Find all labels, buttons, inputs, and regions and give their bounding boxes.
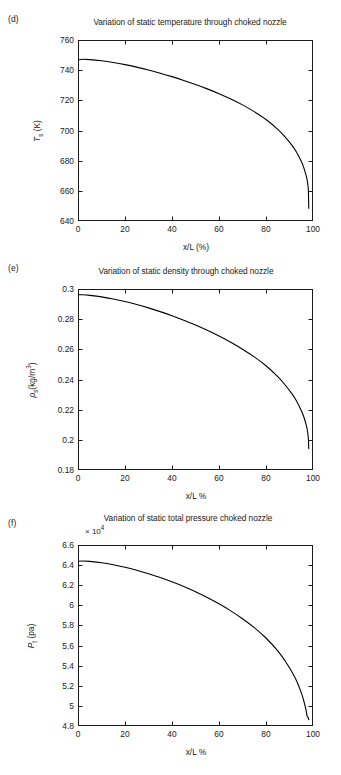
y-tick-label: 6.2 (0, 580, 74, 590)
x-tick-label: 60 (214, 224, 223, 234)
y-tick-label: 740 (0, 65, 74, 75)
x-tick-label: 20 (120, 224, 129, 234)
x-tick-label: 60 (214, 473, 223, 483)
y-tick-label: 0.2 (0, 435, 74, 445)
y-tick-label: 5 (0, 701, 74, 711)
y-tick-label: 660 (0, 186, 74, 196)
chart-title-e: Variation of static density through chok… (99, 266, 274, 276)
chart-title-f: Variation of static total pressure choke… (104, 513, 273, 523)
panel-letter-d: (d) (8, 14, 19, 24)
x-tick-label: 0 (76, 729, 81, 739)
x-tick-label: 40 (167, 473, 176, 483)
y-tick-label: 0.18 (0, 465, 74, 475)
y-tick-label: 680 (0, 156, 74, 166)
x-tick-label: 80 (261, 224, 270, 234)
x-tick-label: 80 (261, 729, 270, 739)
y-tick-label: 640 (0, 216, 74, 226)
multiplier-base: × 10 (85, 527, 101, 536)
y-tick-label: 6.6 (0, 540, 74, 550)
y-tick-label: 6.4 (0, 560, 74, 570)
axis-multiplier-f: × 104 (85, 524, 104, 536)
y-tick-label: 0.22 (0, 405, 74, 415)
panel-letter-e: (e) (8, 263, 19, 273)
plot-area-d (78, 40, 313, 221)
panel-letter-f: (f) (8, 518, 16, 528)
y-tick-label: 0.28 (0, 314, 74, 324)
y-axis-label-e: ρs(kg/m3) (25, 362, 38, 397)
plot-area-f (78, 545, 313, 726)
plot-border (79, 290, 313, 470)
y-tick-label: 5.4 (0, 661, 74, 671)
x-axis-label-d: x/L (%) (183, 242, 209, 252)
x-tick-label: 100 (306, 224, 320, 234)
x-tick-label: 100 (306, 473, 320, 483)
x-tick-label: 40 (167, 224, 176, 234)
y-tick-label: 720 (0, 95, 74, 105)
x-tick-label: 20 (120, 473, 129, 483)
plot-area-e (78, 289, 313, 470)
x-tick-label: 0 (76, 473, 81, 483)
y-tick-label: 4.8 (0, 721, 74, 731)
x-tick-label: 100 (306, 729, 320, 739)
y-tick-label: 6 (0, 600, 74, 610)
x-tick-label: 20 (120, 729, 129, 739)
x-tick-label: 0 (76, 224, 81, 234)
x-axis-label-f: x/L % (186, 747, 207, 757)
y-tick-label: 0.3 (0, 284, 74, 294)
y-tick-label: 5.2 (0, 681, 74, 691)
multiplier-exponent: 4 (101, 524, 105, 531)
y-tick-label: 0.26 (0, 344, 74, 354)
x-tick-label: 80 (261, 473, 270, 483)
x-tick-label: 60 (214, 729, 223, 739)
x-tick-label: 40 (167, 729, 176, 739)
y-tick-label: 760 (0, 35, 74, 45)
y-axis-label-f: Pt (pa) (26, 623, 38, 648)
y-axis-label-d: Ts (K) (32, 120, 44, 142)
plot-border (79, 41, 313, 221)
x-axis-label-e: x/L % (186, 491, 207, 501)
chart-title-d: Variation of static temperature through … (93, 17, 286, 27)
plot-border (79, 546, 313, 726)
